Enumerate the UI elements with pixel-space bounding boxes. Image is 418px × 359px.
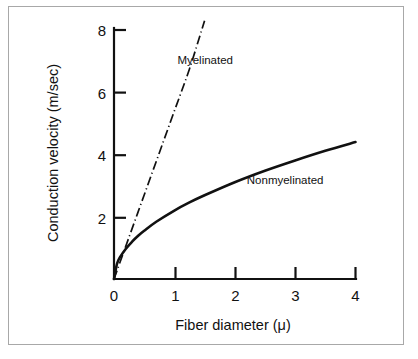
y-tick-label-4: 4 — [98, 147, 106, 164]
y-tick-label-6: 6 — [98, 85, 106, 102]
y-tick-label-8: 8 — [98, 22, 106, 39]
y-axis-title: Conduction velocity (m/sec) — [45, 64, 61, 242]
chart-plot: 8 6 4 2 0 1 2 3 4 Fiber diameter (μ) Con… — [0, 0, 418, 359]
series-line-nonmyelinated — [114, 142, 356, 279]
x-tick-label-3: 3 — [291, 287, 299, 304]
x-tick-label-0: 0 — [110, 287, 118, 304]
figure-root: 8 6 4 2 0 1 2 3 4 Fiber diameter (μ) Con… — [0, 0, 418, 359]
x-tick-label-4: 4 — [351, 287, 359, 304]
y-axis-ticks — [114, 30, 126, 218]
series-label-nonmyelinated: Nonmyelinated — [247, 174, 324, 186]
series-label-myelinated: Myelinated — [177, 54, 233, 66]
y-tick-label-2: 2 — [98, 210, 106, 227]
x-tick-label-1: 1 — [171, 287, 179, 304]
x-axis-ticks — [176, 267, 356, 279]
x-tick-label-2: 2 — [231, 287, 239, 304]
x-axis-title: Fiber diameter (μ) — [175, 317, 291, 333]
